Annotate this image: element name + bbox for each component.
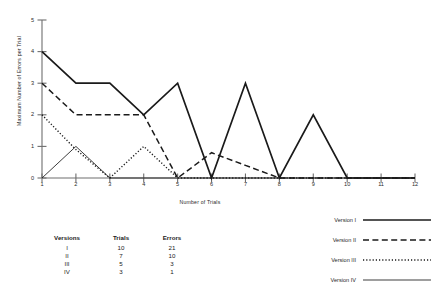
table-element: Versions Trials Errors I1021II710III53IV… [38,234,198,276]
table-row: III53 [38,259,198,267]
legend-item-3: Version III [306,252,430,268]
legend-item-4: Version IV [306,272,430,288]
legend-item-1: Version I [306,212,430,228]
table-cell-r3-c1: III [38,259,96,267]
table-row: I1021 [38,243,198,251]
table-cell-r4-c2: 3 [96,268,146,276]
table-cell-r4-c3: 1 [146,268,198,276]
summary-table: Versions Trials Errors I1021II710III53IV… [38,234,198,276]
table-cell-r1-c3: 21 [146,243,198,251]
legend-line-svg-1 [362,215,432,225]
table-header-row: Versions Trials Errors [38,234,198,243]
table-row: II710 [38,251,198,259]
legend-swatch-3 [362,255,430,265]
legend: Version IVersion IIVersion IIIVersion IV [306,212,430,290]
table-cell-r2-c3: 10 [146,251,198,259]
column-header-versions: Versions [38,234,96,243]
series-line-3 [42,115,415,178]
legend-label-2: Version II [306,237,362,243]
legend-swatch-4 [362,275,430,285]
column-header-errors: Errors [146,234,198,243]
table-cell-r2-c2: 7 [96,251,146,259]
legend-item-2: Version II [306,232,430,248]
table-row: IV31 [38,268,198,276]
table-cell-r3-c2: 5 [96,259,146,267]
legend-label-4: Version IV [306,277,362,283]
table-cell-r2-c1: II [38,251,96,259]
legend-swatch-2 [362,235,430,245]
table-cell-r4-c1: IV [38,268,96,276]
table-body: I1021II710III53IV31 [38,243,198,276]
table-cell-r3-c3: 3 [146,259,198,267]
table-cell-r1-c2: 10 [96,243,146,251]
plot-area: Maximum Number of Errors per Trial Numbe… [0,0,433,215]
series-line-4 [42,146,415,178]
legend-line-svg-2 [362,235,432,245]
chart-canvas [0,0,433,215]
chart-page: Maximum Number of Errors per Trial Numbe… [0,0,433,294]
legend-label-1: Version I [306,217,362,223]
legend-swatch-1 [362,215,430,225]
column-header-trials: Trials [96,234,146,243]
legend-label-3: Version III [306,257,362,263]
legend-line-svg-3 [362,255,432,265]
table-cell-r1-c1: I [38,243,96,251]
legend-line-svg-4 [362,275,432,285]
